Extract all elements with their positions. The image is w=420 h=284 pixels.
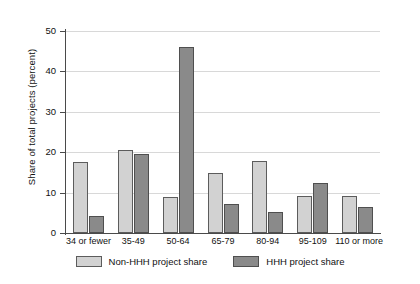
bar xyxy=(252,161,267,233)
bar xyxy=(73,162,88,233)
gridline xyxy=(66,112,380,113)
gridline xyxy=(66,31,380,32)
y-axis-tick-label: 0 xyxy=(34,227,56,238)
gridline xyxy=(66,193,380,194)
x-axis-tick-label: 95-109 xyxy=(290,236,335,246)
y-axis-tick-label: 20 xyxy=(34,146,56,157)
y-axis-tick-label: 30 xyxy=(34,106,56,117)
plot-area xyxy=(66,31,380,233)
bar xyxy=(208,173,223,233)
y-axis-tick-label: 10 xyxy=(34,187,56,198)
x-axis-tick-label: 65-79 xyxy=(201,236,246,246)
bar xyxy=(118,150,133,233)
legend-item[interactable]: HHH project share xyxy=(233,256,344,267)
bar xyxy=(163,197,178,233)
bar xyxy=(179,47,194,233)
bar xyxy=(358,207,373,233)
legend-swatch-icon xyxy=(233,256,259,267)
y-axis-tick-label: 40 xyxy=(34,65,56,76)
x-axis-tick-label: 34 or fewer xyxy=(66,236,111,246)
bar xyxy=(89,216,104,233)
bar xyxy=(342,196,357,233)
bar xyxy=(297,196,312,233)
gridline xyxy=(66,152,380,153)
bar-chart-figure: Share of total projects (percent) 010203… xyxy=(0,0,420,284)
bar xyxy=(268,212,283,233)
x-axis-tick-label: 80-94 xyxy=(245,236,290,246)
legend-label: Non-HHH project share xyxy=(109,256,208,267)
bar xyxy=(313,183,328,233)
bar xyxy=(134,154,149,233)
gridline xyxy=(66,71,380,72)
y-axis-tick-label: 50 xyxy=(34,25,56,36)
legend-label: HHH project share xyxy=(266,256,344,267)
x-axis-tick-label: 50-64 xyxy=(156,236,201,246)
legend-swatch-icon xyxy=(76,256,102,267)
chart-legend: Non-HHH project shareHHH project share xyxy=(0,256,420,267)
x-axis-tick-label: 35-49 xyxy=(111,236,156,246)
bar xyxy=(224,204,239,233)
x-axis-tick-label: 110 or more xyxy=(335,236,380,246)
x-axis-line xyxy=(65,233,381,234)
legend-item[interactable]: Non-HHH project share xyxy=(76,256,208,267)
